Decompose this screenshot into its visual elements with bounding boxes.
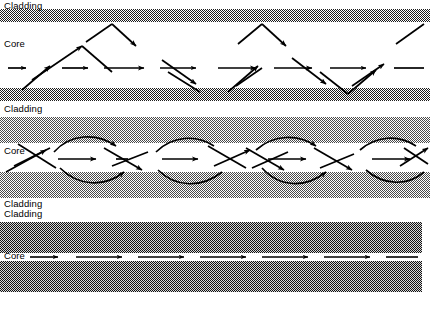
section-multimode-step-index bbox=[0, 9, 430, 101]
section-single-mode bbox=[0, 222, 422, 292]
label-core-section2: Core bbox=[4, 146, 25, 156]
core-region-2 bbox=[0, 143, 430, 172]
cladding-fade-top-2 bbox=[0, 117, 430, 143]
cladding-band-bottom-3 bbox=[0, 261, 422, 292]
cladding-band-top-3 bbox=[0, 222, 422, 253]
fiber-diagram-figure: Cladding Core Cladding Core Cladding Cla… bbox=[0, 0, 430, 309]
label-cladding-section2-top: Cladding bbox=[4, 104, 42, 114]
label-core-section1: Core bbox=[4, 39, 25, 49]
diagram-canvas bbox=[0, 0, 430, 309]
label-core-section3: Core bbox=[4, 251, 25, 261]
cladding-band-top-1 bbox=[0, 9, 430, 22]
cladding-band-bottom-1 bbox=[0, 88, 430, 101]
label-cladding-section1: Cladding bbox=[4, 1, 42, 11]
label-cladding-section3: Cladding bbox=[4, 209, 42, 219]
section-graded-index bbox=[0, 117, 430, 198]
